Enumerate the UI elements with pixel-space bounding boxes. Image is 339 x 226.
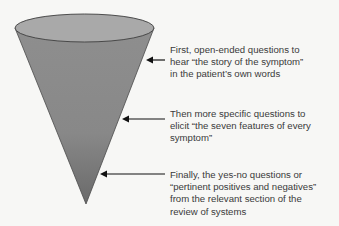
stage-1-line-1: First, open-ended questions to	[170, 44, 303, 56]
stage-2-line-2: elicit “the seven features of every	[170, 120, 311, 132]
stage-3-line-2: “pertinent positives and negatives”	[170, 181, 316, 193]
stage-3-line-1: Finally, the yes-no questions or	[170, 169, 316, 181]
stage-3-line-4: review of systems	[170, 206, 316, 218]
cone-body	[15, 28, 154, 204]
stage-1-label: First, open-ended questions to hear “the…	[170, 44, 303, 81]
stage-1-line-2: hear “the story of the symptom”	[170, 56, 303, 68]
stage-1-line-3: in the patient’s own words	[170, 68, 303, 80]
stage-2-label: Then more specific questions to elicit “…	[170, 108, 311, 145]
stage-2-line-3: symptom”	[170, 132, 311, 144]
stage-2-line-1: Then more specific questions to	[170, 108, 311, 120]
arrow-1-icon	[146, 57, 165, 64]
arrow-3-icon	[100, 171, 165, 178]
cone-top-ellipse	[15, 14, 154, 42]
arrow-2-icon	[122, 116, 165, 123]
stage-3-label: Finally, the yes-no questions or “pertin…	[170, 169, 316, 218]
stage-3-line-3: from the relevant section of the	[170, 193, 316, 205]
